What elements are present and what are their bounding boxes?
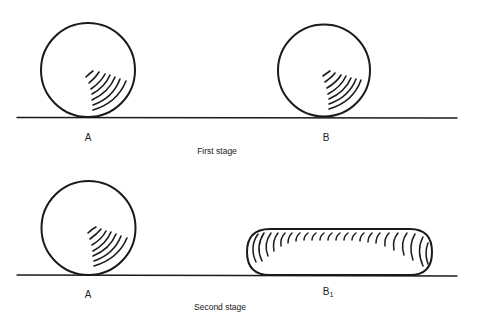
diagram-canvas [0, 0, 484, 324]
flattened-cylinder-b1 [247, 229, 432, 275]
label-a-first-stage: A [85, 132, 92, 143]
sphere-b-first-stage [278, 25, 370, 117]
label-b1-subscript: 1 [329, 291, 333, 298]
label-b1-main: B [323, 286, 330, 297]
caption-first-stage: First stage [197, 146, 237, 156]
sphere-a-second-stage [42, 181, 136, 275]
shading-arcs [88, 227, 127, 266]
label-b1-second-stage: B1 [323, 286, 334, 298]
label-b-first-stage: B [323, 132, 330, 143]
caption-second-stage: Second stage [194, 302, 246, 312]
label-a-second-stage: A [85, 289, 92, 300]
shading-arcs [253, 233, 428, 266]
sphere-a-first-stage [41, 23, 135, 117]
